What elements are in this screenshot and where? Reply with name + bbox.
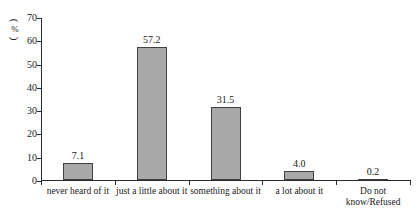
- y-tick-label: 60: [15, 34, 37, 47]
- plot-area: 010203040506070 7.157.231.54.00.2: [41, 18, 410, 181]
- bar-0[interactable]: 7.1: [63, 163, 93, 180]
- bar-2[interactable]: 31.5: [211, 107, 241, 180]
- x-tick-mark: [115, 180, 116, 185]
- bar-value-label: 31.5: [217, 94, 235, 106]
- y-tick-label: 50: [15, 58, 37, 71]
- x-tick-mark: [41, 180, 42, 185]
- bar-chart: ( % ) 010203040506070 7.157.231.54.00.2 …: [0, 0, 420, 223]
- category-label-0: never heard of it: [41, 186, 115, 197]
- y-tick-mark: [37, 134, 42, 135]
- y-tick-mark: [37, 88, 42, 89]
- bar-value-label: 4.0: [293, 158, 306, 170]
- x-tick-mark: [189, 180, 190, 185]
- bar-value-label: 0.2: [367, 166, 380, 178]
- bar-value-label: 7.1: [72, 150, 85, 162]
- bar-value-label: 57.2: [143, 34, 161, 46]
- y-tick-mark: [37, 111, 42, 112]
- x-tick-mark: [262, 180, 263, 185]
- bar-4[interactable]: 0.2: [358, 179, 388, 180]
- category-label-4: Do not know/Refused: [336, 186, 410, 208]
- y-tick-mark: [37, 18, 42, 19]
- y-tick-mark: [37, 65, 42, 66]
- category-label-2: something about it: [189, 186, 263, 197]
- y-tick-label: 10: [15, 151, 37, 164]
- y-tick-mark: [37, 158, 42, 159]
- y-tick-mark: [37, 41, 42, 42]
- y-axis-line: [41, 18, 42, 181]
- y-tick-label: 20: [15, 127, 37, 140]
- y-tick-label: 40: [15, 81, 37, 94]
- y-tick-label: 30: [15, 104, 37, 117]
- category-label-3: a lot about it: [262, 186, 336, 197]
- y-tick-label: 70: [15, 11, 37, 24]
- y-tick-label: 0: [15, 174, 37, 187]
- bar-3[interactable]: 4.0: [284, 171, 314, 180]
- percent-symbol: %: [11, 24, 19, 35]
- bar-1[interactable]: 57.2: [137, 47, 167, 180]
- category-label-1: just a little about it: [115, 186, 189, 197]
- x-tick-mark: [410, 180, 411, 185]
- x-axis-line: [41, 180, 410, 181]
- x-tick-mark: [336, 180, 337, 185]
